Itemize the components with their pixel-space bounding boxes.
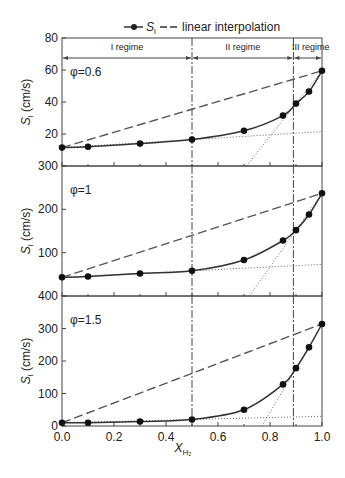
data-point — [241, 257, 248, 264]
phi-label: φ=0.6 — [70, 65, 102, 79]
data-point — [241, 406, 248, 413]
data-point — [189, 136, 196, 143]
y-tick-label: 100 — [38, 387, 58, 401]
x-tick-label: 0.8 — [262, 430, 279, 444]
data-point — [59, 274, 66, 281]
data-point — [293, 100, 300, 107]
y-tick-label: 200 — [38, 354, 58, 368]
y-axis-label: Sl (cm/s) — [19, 79, 35, 125]
data-point — [137, 418, 144, 425]
y-tick-label: 400 — [38, 289, 58, 303]
data-point — [280, 381, 287, 388]
y-tick-label: 60 — [45, 63, 59, 77]
data-point — [319, 321, 326, 328]
y-tick-label: 300 — [38, 322, 58, 336]
y-tick-label: 20 — [45, 127, 59, 141]
high-tangent-line — [250, 193, 322, 296]
y-tick-label: 40 — [45, 95, 59, 109]
data-point — [241, 128, 248, 135]
data-point — [280, 112, 287, 119]
data-point — [85, 144, 92, 151]
phi-label: φ=1.5 — [70, 313, 102, 327]
y-tick-label: 200 — [38, 202, 58, 216]
data-point — [189, 268, 196, 275]
y-tick-label: 100 — [38, 246, 58, 260]
legend-series-label: Sl — [146, 20, 156, 36]
data-point — [280, 237, 287, 244]
x-tick-label: 1.0 — [314, 430, 331, 444]
data-point — [293, 227, 300, 234]
data-point — [306, 88, 313, 95]
y-tick-label: 300 — [38, 159, 58, 173]
y-axis-label: Sl (cm/s) — [19, 338, 35, 384]
data-point — [306, 344, 313, 351]
data-point — [319, 68, 326, 75]
data-point — [306, 211, 313, 218]
x-tick-label: 0.6 — [210, 430, 227, 444]
x-axis-label: XH₂ — [174, 441, 192, 457]
panel-3: 0100200300400Sl (cm/s)φ=1.5 — [19, 289, 325, 433]
y-tick-label: 80 — [45, 31, 59, 45]
regime-label: II regime — [225, 42, 260, 52]
data-point — [59, 419, 66, 426]
data-point — [137, 270, 144, 277]
data-point — [319, 190, 326, 197]
data-point — [59, 144, 66, 151]
panel-1: 20406080Sl (cm/s)φ=0.6I regimeII regimeI… — [19, 31, 329, 166]
data-point — [293, 365, 300, 372]
x-tick-label: 0.0 — [54, 430, 71, 444]
x-axis: 0.00.20.40.60.81.0 — [54, 430, 331, 444]
laminar-burning-velocity-chart: Sl linear interpolation 20406080Sl (cm/s… — [0, 0, 345, 478]
marker-icon — [131, 24, 137, 30]
x-tick-label: 0.2 — [106, 430, 123, 444]
regime-label: I regime — [111, 42, 144, 52]
y-axis-label: Sl (cm/s) — [19, 208, 35, 254]
regime-label: III regime — [292, 42, 330, 52]
x-tick-label: 0.4 — [158, 430, 175, 444]
data-point — [85, 419, 92, 426]
legend-interp-label: linear interpolation — [182, 20, 280, 34]
data-point — [137, 140, 144, 147]
legend: Sl linear interpolation — [124, 20, 280, 36]
data-point — [189, 416, 196, 423]
phi-label: φ=1 — [70, 183, 92, 197]
data-point — [85, 273, 92, 280]
panel-2: 100200300Sl (cm/s)φ=1 — [19, 159, 325, 296]
